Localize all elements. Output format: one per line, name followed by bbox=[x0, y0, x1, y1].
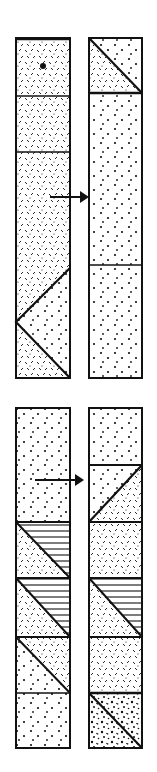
lower-pair bbox=[16, 408, 142, 748]
marker-dot bbox=[40, 63, 46, 69]
lower-left-column bbox=[16, 408, 70, 748]
upper-left-column bbox=[16, 38, 70, 378]
stratigraphy-figure bbox=[0, 0, 157, 772]
dash-bed bbox=[89, 522, 142, 578]
dots-bed bbox=[89, 408, 142, 465]
lower-right-column bbox=[89, 408, 142, 748]
upper-right-column bbox=[89, 38, 142, 378]
dash-bed bbox=[89, 637, 142, 693]
dots-bed bbox=[16, 408, 70, 522]
dots-bed bbox=[16, 693, 70, 748]
upper-pair bbox=[16, 38, 142, 378]
